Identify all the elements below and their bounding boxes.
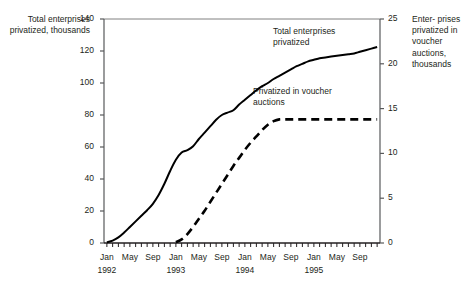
chart-figure: Total enterprises privatized, thousands … [0, 0, 467, 291]
series-line-2 [176, 119, 377, 242]
plot-canvas [0, 0, 467, 291]
series-line-1 [107, 47, 377, 242]
